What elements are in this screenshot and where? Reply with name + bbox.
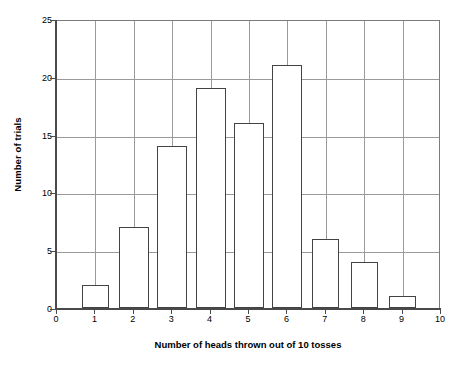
x-tick-label: 7	[322, 315, 327, 324]
bar	[82, 285, 109, 308]
x-axis-tick-labels: 012345678910	[56, 315, 440, 331]
bar	[157, 146, 187, 308]
bar	[196, 88, 226, 308]
y-axis-line	[55, 20, 57, 310]
y-axis-tick-labels: 0510152025	[30, 20, 52, 309]
bar	[351, 262, 378, 308]
x-tick-label: 2	[130, 315, 135, 324]
bar	[234, 123, 264, 308]
y-tick-label: 20	[30, 73, 52, 82]
plot-area	[56, 20, 440, 309]
y-tick-label: 15	[30, 131, 52, 140]
x-tick-label: 5	[245, 315, 250, 324]
x-tick-label: 6	[284, 315, 289, 324]
y-axis-title: Number of trials	[0, 0, 34, 309]
y-tick-label: 0	[30, 305, 52, 314]
y-tick-label: 25	[30, 16, 52, 25]
y-axis-title-text: Number of trials	[12, 117, 23, 191]
bar	[312, 239, 339, 308]
x-tick-label: 0	[53, 315, 58, 324]
y-tick-label: 10	[30, 189, 52, 198]
x-tick-label: 9	[399, 315, 404, 324]
x-axis-title: Number of heads thrown out of 10 tosses	[56, 339, 440, 350]
x-tick-label: 8	[361, 315, 366, 324]
bars-layer	[57, 21, 439, 308]
bar	[389, 296, 416, 308]
bar	[272, 65, 302, 308]
bar	[119, 227, 149, 308]
bar-chart-figure: Number of trials 0510152025 012345678910…	[0, 0, 463, 369]
y-tick-label: 5	[30, 247, 52, 256]
x-tick-label: 3	[169, 315, 174, 324]
x-tick-label: 10	[435, 315, 445, 324]
x-tick-label: 1	[92, 315, 97, 324]
x-tick-label: 4	[207, 315, 212, 324]
